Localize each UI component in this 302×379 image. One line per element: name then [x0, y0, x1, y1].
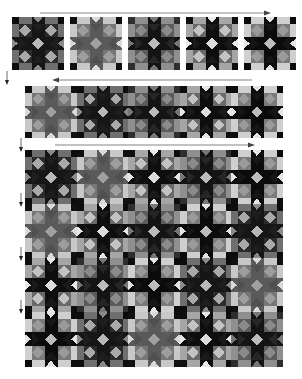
- star-block-icon: [128, 86, 180, 138]
- down-arrow-3: [18, 193, 24, 207]
- quilt-block-r4-c3: [128, 312, 180, 367]
- quilt-block-r2-c3: [128, 204, 180, 259]
- down-arrow-1: [4, 71, 10, 85]
- row-block-4: [180, 86, 232, 138]
- star-block-icon: [128, 17, 180, 70]
- star-block-icon: [77, 86, 129, 138]
- quilt-block-r2-c5: [231, 204, 283, 259]
- star-block-icon: [231, 86, 283, 138]
- step3-arrow: [55, 141, 255, 149]
- star-block-icon: [128, 150, 180, 205]
- quilt-block-r3-c2: [77, 258, 129, 313]
- row-block-2: [77, 86, 129, 138]
- block-1: [12, 17, 64, 70]
- star-block-icon: [77, 150, 129, 205]
- quilt-block-r1-c4: [180, 150, 232, 205]
- step1-arrow: [40, 9, 272, 17]
- arrow-right-icon: [55, 141, 255, 149]
- star-block-icon: [25, 312, 77, 367]
- star-block-icon: [25, 150, 77, 205]
- star-block-icon: [180, 204, 232, 259]
- star-block-icon: [128, 204, 180, 259]
- quilt-block-r4-c2: [77, 312, 129, 367]
- star-block-icon: [180, 150, 232, 205]
- arrow-down-icon: [18, 247, 24, 261]
- star-block-icon: [231, 312, 283, 367]
- quilt-block-r3-c1: [25, 258, 77, 313]
- block-3: [128, 17, 180, 70]
- down-arrow-2: [18, 138, 24, 152]
- star-block-icon: [25, 204, 77, 259]
- star-block-icon: [25, 86, 77, 138]
- arrow-left-icon: [52, 76, 252, 84]
- star-block-icon: [231, 204, 283, 259]
- arrow-right-icon: [40, 9, 272, 17]
- quilt-block-r1-c1: [25, 150, 77, 205]
- block-5: [244, 17, 296, 70]
- quilt-block-r3-c5: [231, 258, 283, 313]
- star-block-icon: [186, 17, 238, 70]
- arrow-down-icon: [18, 138, 24, 152]
- star-block-icon: [77, 258, 129, 313]
- quilt-block-r4-c1: [25, 312, 77, 367]
- quilt-block-r1-c3: [128, 150, 180, 205]
- block-4: [186, 17, 238, 70]
- quilt-block-r2-c4: [180, 204, 232, 259]
- star-block-icon: [231, 258, 283, 313]
- step2-arrow: [52, 76, 252, 84]
- row-block-1: [25, 86, 77, 138]
- star-block-icon: [128, 312, 180, 367]
- quilt-block-r2-c2: [77, 204, 129, 259]
- quilt-block-r4-c5: [231, 312, 283, 367]
- star-block-icon: [25, 258, 77, 313]
- star-block-icon: [77, 312, 129, 367]
- star-block-icon: [180, 86, 232, 138]
- row-block-3: [128, 86, 180, 138]
- quilt-block-r2-c1: [25, 204, 77, 259]
- row-block-5: [231, 86, 283, 138]
- block-2: [70, 17, 122, 70]
- star-block-icon: [70, 17, 122, 70]
- arrow-down-icon: [18, 300, 24, 314]
- quilt-block-r3-c4: [180, 258, 232, 313]
- star-block-icon: [12, 17, 64, 70]
- star-block-icon: [180, 258, 232, 313]
- down-arrow-4: [18, 247, 24, 261]
- star-block-icon: [77, 204, 129, 259]
- star-block-icon: [231, 150, 283, 205]
- quilt-block-r1-c5: [231, 150, 283, 205]
- star-block-icon: [180, 312, 232, 367]
- quilt-block-r4-c4: [180, 312, 232, 367]
- star-block-icon: [244, 17, 296, 70]
- down-arrow-5: [18, 300, 24, 314]
- star-block-icon: [128, 258, 180, 313]
- quilt-block-r3-c3: [128, 258, 180, 313]
- arrow-down-icon: [18, 193, 24, 207]
- arrow-down-icon: [4, 71, 10, 85]
- quilt-block-r1-c2: [77, 150, 129, 205]
